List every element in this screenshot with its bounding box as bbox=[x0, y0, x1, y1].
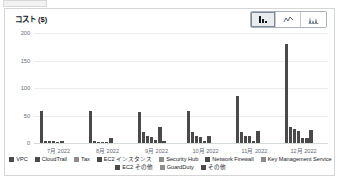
bar[interactable] bbox=[52, 141, 55, 143]
legend-item[interactable]: GuardDuty bbox=[160, 165, 194, 171]
legend-item-label: CloudTrail bbox=[42, 157, 67, 163]
bar[interactable] bbox=[48, 141, 51, 143]
chart-type-toggle-group[interactable] bbox=[250, 11, 327, 28]
line-chart-icon bbox=[283, 15, 294, 24]
bar[interactable] bbox=[97, 142, 100, 143]
legend-swatch bbox=[261, 157, 266, 162]
legend-swatch bbox=[35, 157, 40, 162]
widget-header: コスト ($) bbox=[5, 9, 334, 29]
bar[interactable] bbox=[301, 138, 304, 144]
bar[interactable] bbox=[289, 127, 292, 143]
x-axis-tick-label: 9月 2022 bbox=[145, 147, 168, 155]
y-axis-tick-label: 150 bbox=[21, 58, 30, 64]
y-axis-tick-label: 200 bbox=[21, 30, 30, 36]
bar[interactable] bbox=[56, 142, 59, 143]
x-axis-tick-label: 7月 2022 bbox=[47, 147, 70, 155]
bar[interactable] bbox=[293, 129, 296, 143]
legend-item[interactable]: その他 bbox=[201, 165, 226, 171]
bar[interactable] bbox=[93, 141, 96, 143]
x-axis-tick-label: 8月 2022 bbox=[96, 147, 119, 155]
bar[interactable] bbox=[60, 141, 63, 143]
bar[interactable] bbox=[309, 130, 312, 143]
bar-series-container bbox=[34, 33, 328, 143]
bar[interactable] bbox=[150, 137, 153, 143]
bar[interactable] bbox=[207, 136, 210, 143]
bar[interactable] bbox=[256, 131, 259, 143]
bar[interactable] bbox=[244, 136, 247, 143]
legend-swatch bbox=[9, 157, 14, 162]
legend-item-label: GuardDuty bbox=[167, 165, 194, 171]
y-axis-tick-label: 0 bbox=[27, 140, 30, 146]
legend-swatch bbox=[74, 157, 79, 162]
bar-chart-button[interactable] bbox=[251, 12, 276, 27]
plot-area: 050100150200 bbox=[34, 33, 328, 143]
bar[interactable] bbox=[109, 138, 112, 144]
gridline bbox=[34, 143, 328, 144]
line-chart-button[interactable] bbox=[276, 12, 301, 27]
bar[interactable] bbox=[199, 137, 202, 143]
bar[interactable] bbox=[187, 111, 190, 143]
legend-item[interactable]: Key Management Service bbox=[261, 157, 332, 163]
bar[interactable] bbox=[40, 111, 43, 143]
bar[interactable] bbox=[142, 132, 145, 143]
y-axis-tick-label: 50 bbox=[24, 113, 30, 119]
area-chart-button[interactable] bbox=[301, 12, 326, 27]
legend-item-label: Security Hub bbox=[166, 157, 198, 163]
y-axis-tick-label: 100 bbox=[21, 85, 30, 91]
legend-item[interactable]: EC2 インスタンス bbox=[97, 157, 152, 163]
legend-swatch bbox=[205, 157, 210, 162]
bar[interactable] bbox=[138, 112, 141, 143]
bar[interactable] bbox=[158, 127, 161, 144]
bar[interactable] bbox=[203, 141, 206, 143]
bar[interactable] bbox=[305, 138, 308, 143]
bar[interactable] bbox=[240, 132, 243, 143]
area-chart-icon bbox=[308, 15, 319, 24]
legend-item[interactable]: CloudTrail bbox=[35, 157, 67, 163]
legend-item-label: その他 bbox=[208, 165, 226, 171]
legend-item[interactable]: Network Firewall bbox=[205, 157, 253, 163]
legend-row: VPCCloudTrailTaxEC2 インスタンスSecurity HubNe… bbox=[9, 157, 331, 163]
legend-swatch bbox=[160, 165, 165, 170]
legend-item-label: Key Management Service bbox=[268, 157, 332, 163]
bar[interactable] bbox=[297, 131, 300, 143]
bar[interactable] bbox=[248, 136, 251, 143]
bar[interactable] bbox=[162, 141, 165, 143]
legend-item-label: VPC bbox=[16, 157, 28, 163]
page-title: コスト ($) bbox=[15, 13, 47, 24]
plot-wrapper: 050100150200 7月 20228月 20229月 202210月 20… bbox=[5, 29, 336, 177]
bar[interactable] bbox=[89, 111, 92, 143]
legend-swatch bbox=[115, 165, 120, 170]
legend-item-label: Network Firewall bbox=[212, 157, 253, 163]
bar[interactable] bbox=[285, 44, 288, 143]
bar[interactable] bbox=[236, 96, 239, 143]
bar[interactable] bbox=[101, 142, 104, 143]
x-axis-tick-label: 10月 2022 bbox=[192, 147, 218, 155]
bar[interactable] bbox=[252, 141, 255, 143]
chart-legend: VPCCloudTrailTaxEC2 インスタンスSecurity HubNe… bbox=[5, 157, 336, 170]
bar[interactable] bbox=[44, 141, 47, 143]
legend-item-label: EC2 インスタンス bbox=[104, 157, 152, 163]
top-fragment-strip bbox=[3, 0, 47, 7]
bar[interactable] bbox=[154, 140, 157, 143]
legend-swatch bbox=[201, 165, 206, 170]
bar-chart-icon bbox=[258, 15, 269, 24]
bar[interactable] bbox=[195, 136, 198, 143]
legend-item[interactable]: Security Hub bbox=[159, 157, 198, 163]
x-axis-tick-label: 12月 2022 bbox=[290, 147, 316, 155]
legend-row: EC2 その他GuardDutyその他 bbox=[115, 165, 226, 171]
x-axis-tick-label: 11月 2022 bbox=[242, 147, 268, 155]
legend-swatch bbox=[159, 157, 164, 162]
legend-item[interactable]: VPC bbox=[9, 157, 28, 163]
legend-swatch bbox=[97, 157, 102, 162]
legend-item[interactable]: EC2 その他 bbox=[115, 165, 152, 171]
bar[interactable] bbox=[105, 142, 108, 143]
bar[interactable] bbox=[146, 136, 149, 143]
legend-item-label: EC2 その他 bbox=[122, 165, 152, 171]
legend-item-label: Tax bbox=[81, 157, 90, 163]
cost-chart-widget: コスト ($) bbox=[4, 8, 335, 176]
legend-item[interactable]: Tax bbox=[74, 157, 90, 163]
bar[interactable] bbox=[191, 132, 194, 143]
